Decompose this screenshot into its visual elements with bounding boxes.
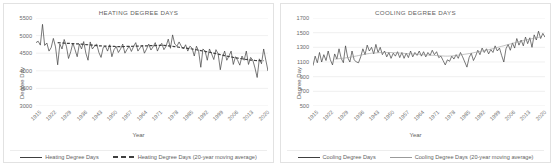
y-tick-label: 700 [287,88,309,94]
line-thin-icon [390,155,412,159]
legend-heating: Heating Degree Days Heating Degree Days … [10,150,267,160]
heating-degree-days-panel: HEATING DEGREE DAYS Degree Day 300035004… [0,0,277,166]
line-solid-icon [20,155,42,159]
charts-container: HEATING DEGREE DAYS Degree Day 300035004… [0,0,554,166]
plot-area-cooling [313,18,545,106]
y-tick-label: 1700 [287,15,309,21]
legend-item-cooling-observed[interactable]: Cooling Degree Days [298,154,376,160]
y-tick-label: 4500 [10,50,32,56]
y-tick-label: 1500 [287,30,309,36]
y-tick-label: 1100 [287,59,309,65]
line-dashed-icon [113,155,135,159]
x-axis-label-cooling: Year [281,132,550,138]
legend-cooling: Cooling Degree Days Cooling Degree Days … [287,150,544,160]
heating-panel-frame: HEATING DEGREE DAYS Degree Day 300035004… [3,3,274,163]
y-tick-label: 500 [287,103,309,109]
x-axis-label-heating: Year [4,132,273,138]
y-tick-label: 3000 [10,103,32,109]
y-tick-label: 900 [287,74,309,80]
legend-item-cooling-moving-average[interactable]: Cooling Degree Days (20-year moving aver… [390,154,534,160]
chart-title-cooling: COOLING DEGREE DAYS [281,9,550,16]
y-tick-label: 1300 [287,44,309,50]
chart-title-heating: HEATING DEGREE DAYS [4,9,273,16]
y-tick-label: 3500 [10,85,32,91]
legend-label: Cooling Degree Days (20-year moving aver… [415,154,534,160]
cooling-panel-frame: COOLING DEGREE DAYS Degree Day 500700900… [280,3,551,163]
line-solid-icon [298,155,320,159]
y-tick-label: 4000 [10,68,32,74]
legend-label: Heating Degree Days [45,154,98,160]
y-tick-label: 5500 [10,15,32,21]
legend-item-heating-observed[interactable]: Heating Degree Days [20,154,98,160]
legend-label: Heating Degree Days (20-year moving aver… [138,154,257,160]
y-tick-label: 5000 [10,33,32,39]
plot-area-heating [36,18,268,106]
cooling-degree-days-panel: COOLING DEGREE DAYS Degree Day 500700900… [277,0,554,166]
legend-item-heating-moving-average[interactable]: Heating Degree Days (20-year moving aver… [113,154,257,160]
legend-label: Cooling Degree Days [323,154,376,160]
